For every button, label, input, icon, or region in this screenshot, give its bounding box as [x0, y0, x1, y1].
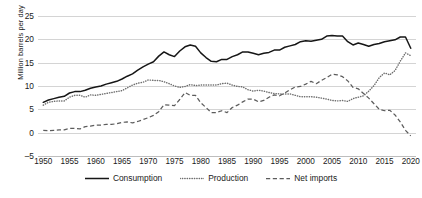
legend-label: Consumption: [113, 174, 162, 182]
y-axis-title: Million barrels per day: [16, 0, 25, 98]
x-tick-1970: 1970: [139, 158, 157, 166]
legend-swatch-solid: [85, 175, 109, 182]
x-tick-1980: 1980: [192, 158, 210, 166]
x-tick-1960: 1960: [87, 158, 105, 166]
series-lines: [38, 16, 416, 156]
legend-swatch-dashed: [266, 175, 290, 182]
x-tick-1965: 1965: [113, 158, 131, 166]
legend-item-consumption[interactable]: Consumption: [85, 174, 162, 182]
oil-supply-line-chart: Million barrels per day –50510152025 195…: [0, 0, 422, 198]
legend-item-production[interactable]: Production: [180, 174, 248, 182]
x-tick-2000: 2000: [297, 158, 315, 166]
legend-item-net-imports[interactable]: Net imports: [266, 174, 337, 182]
series-line-production: [43, 53, 411, 105]
legend-swatch-dotted: [180, 175, 204, 182]
legend-label: Production: [208, 174, 248, 182]
x-tick-2015: 2015: [375, 158, 393, 166]
y-tick--5: –5: [25, 152, 34, 160]
y-tick-15: 15: [25, 58, 34, 66]
x-tick-1985: 1985: [218, 158, 236, 166]
x-tick-2010: 2010: [349, 158, 367, 166]
legend-label: Net imports: [294, 174, 337, 182]
x-tick-1955: 1955: [60, 158, 78, 166]
y-tick-20: 20: [25, 35, 34, 43]
y-tick-0: 0: [29, 128, 34, 136]
x-tick-1950: 1950: [34, 158, 52, 166]
x-tick-1975: 1975: [165, 158, 183, 166]
x-tick-1990: 1990: [244, 158, 262, 166]
y-tick-25: 25: [25, 12, 34, 20]
x-tick-2020: 2020: [402, 158, 420, 166]
x-tick-2005: 2005: [323, 158, 341, 166]
series-line-consumption: [43, 36, 411, 103]
plot-area: –50510152025 195019551960196519701975198…: [38, 16, 416, 156]
chart-legend: ConsumptionProductionNet imports: [0, 174, 422, 182]
y-tick-10: 10: [25, 82, 34, 90]
y-tick-5: 5: [29, 105, 34, 113]
x-tick-1995: 1995: [270, 158, 288, 166]
